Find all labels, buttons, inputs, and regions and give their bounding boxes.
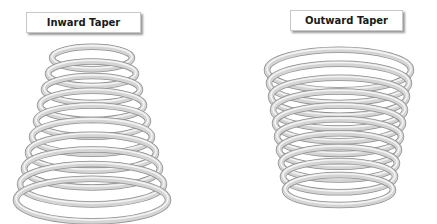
- outward-taper-spring: [267, 49, 411, 205]
- springs-illustration: [0, 0, 437, 224]
- inward-taper-spring: [16, 46, 168, 222]
